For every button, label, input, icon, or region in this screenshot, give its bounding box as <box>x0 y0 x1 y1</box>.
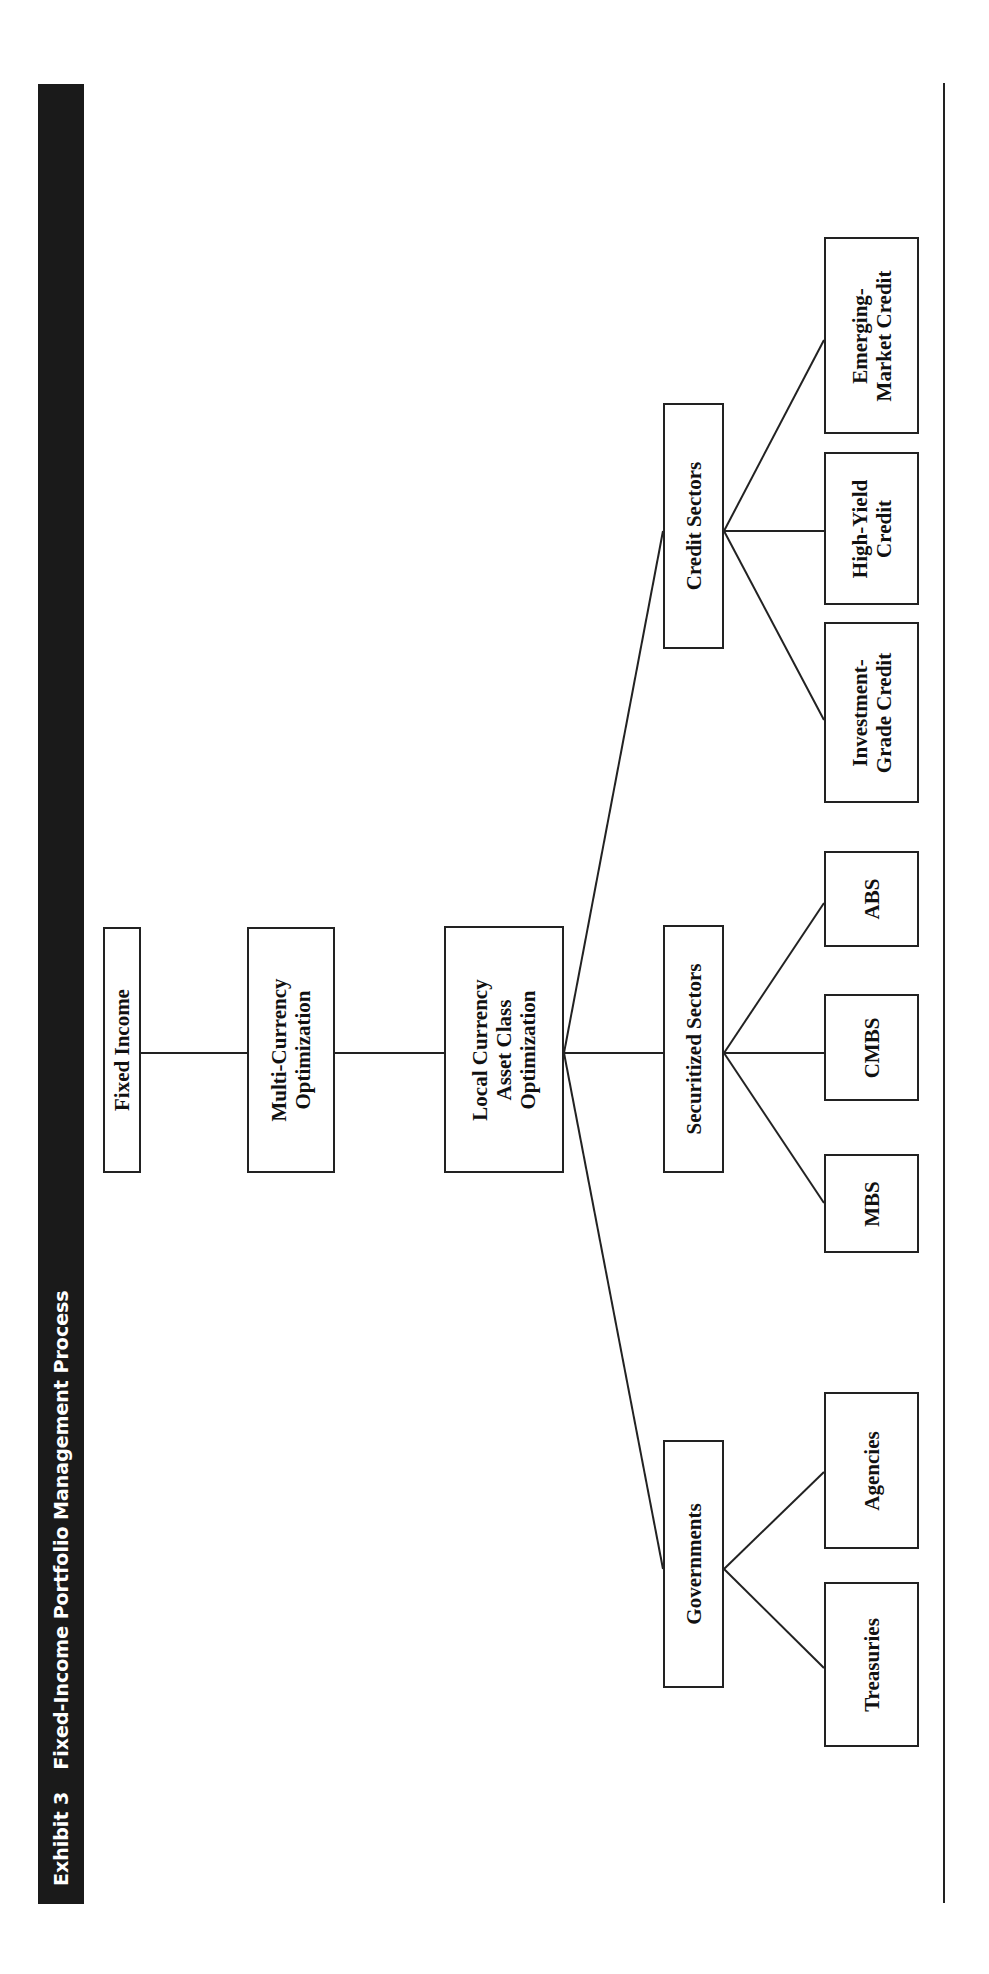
node-label: Treasuries <box>860 1618 884 1712</box>
node-mbs: MBS <box>824 1154 919 1253</box>
node-cmbs: CMBS <box>824 994 919 1101</box>
connector-credit-investment-grade <box>724 531 824 720</box>
node-high-yield-credit: High-Yield Credit <box>824 452 919 605</box>
node-fixed-income: Fixed Income <box>103 927 141 1173</box>
connector-governments-agencies <box>724 1472 824 1569</box>
node-emerging-market-credit: Emerging- Market Credit <box>824 237 919 434</box>
node-treasuries: Treasuries <box>824 1582 919 1747</box>
node-label: High-Yield Credit <box>848 479 896 577</box>
node-agencies: Agencies <box>824 1392 919 1549</box>
node-label: Local Currency Asset Class Optimization <box>468 979 540 1120</box>
node-label: Securitized Sectors <box>682 964 706 1135</box>
node-label: Multi-Currency Optimization <box>267 978 315 1121</box>
connector-local-credit <box>564 531 663 1053</box>
connector-securitized-mbs <box>724 1053 824 1203</box>
node-label: Emerging- Market Credit <box>848 270 896 401</box>
node-abs: ABS <box>824 851 919 947</box>
node-label: Fixed Income <box>110 989 134 1111</box>
node-label: CMBS <box>860 1017 884 1078</box>
exhibit-page: Exhibit 3 Fixed-Income Portfolio Managem… <box>0 0 989 1974</box>
node-securitized-sectors: Securitized Sectors <box>663 925 724 1173</box>
node-label: ABS <box>860 879 884 920</box>
node-multi-currency-optimization: Multi-Currency Optimization <box>247 927 335 1173</box>
node-credit-sectors: Credit Sectors <box>663 403 724 649</box>
node-governments: Governments <box>663 1440 724 1688</box>
node-label: MBS <box>860 1181 884 1227</box>
connector-local-governments <box>564 1053 663 1569</box>
connector-governments-treasuries <box>724 1569 824 1668</box>
connector-securitized-abs <box>724 903 824 1053</box>
connector-credit-emerging <box>724 340 824 531</box>
node-local-currency-asset-class-optimization: Local Currency Asset Class Optimization <box>444 926 564 1173</box>
node-investment-grade-credit: Investment- Grade Credit <box>824 622 919 803</box>
node-label: Investment- Grade Credit <box>848 652 896 772</box>
node-label: Agencies <box>860 1431 884 1510</box>
node-label: Governments <box>682 1503 706 1624</box>
node-label: Credit Sectors <box>682 462 706 591</box>
